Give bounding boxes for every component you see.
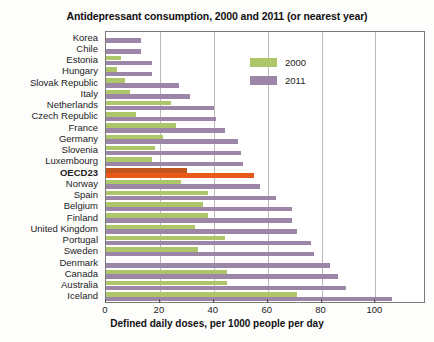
legend-label-2011: 2011 xyxy=(285,75,305,86)
category-label-iceland: Iceland xyxy=(0,290,101,301)
bar-2011-canada xyxy=(106,274,338,279)
bar-2011-portugal xyxy=(106,241,311,246)
legend-label-2000: 2000 xyxy=(285,57,306,68)
x-tick-label-60: 60 xyxy=(261,304,272,315)
category-label-chile: Chile xyxy=(0,43,101,54)
category-label-canada: Canada xyxy=(0,268,101,279)
x-tick-label-80: 80 xyxy=(315,304,326,315)
category-label-netherlands: Netherlands xyxy=(0,99,101,110)
bar-2011-australia xyxy=(106,286,346,291)
x-tick-mark-20 xyxy=(159,299,160,303)
chart-title: Antidepressant consumption, 2000 and 201… xyxy=(0,10,434,22)
x-tick-label-0: 0 xyxy=(102,304,107,315)
category-label-belgium: Belgium xyxy=(0,200,101,211)
bar-2011-united-kingdom xyxy=(106,229,297,234)
bar-2011-germany xyxy=(106,139,238,144)
bar-2011-netherlands xyxy=(106,106,214,111)
category-label-germany: Germany xyxy=(0,133,101,144)
bar-2011-korea xyxy=(106,38,141,43)
bar-2011-sweden xyxy=(106,252,314,257)
bar-2011-czech-republic xyxy=(106,117,216,122)
category-label-italy: Italy xyxy=(0,88,101,99)
legend-swatch-2011-icon xyxy=(250,76,277,85)
category-label-norway: Norway xyxy=(0,178,101,189)
bar-2011-norway xyxy=(106,184,260,189)
bar-2011-hungary xyxy=(106,72,152,77)
category-label-spain: Spain xyxy=(0,189,101,200)
x-tick-mark-0 xyxy=(105,299,106,303)
category-label-finland: Finland xyxy=(0,212,101,223)
bar-2011-estonia xyxy=(106,61,152,66)
category-label-australia: Australia xyxy=(0,279,101,290)
bar-2011-iceland xyxy=(106,297,392,302)
bar-2011-oecd23 xyxy=(106,173,254,178)
category-label-slovenia: Slovenia xyxy=(0,144,101,155)
x-tick-label-40: 40 xyxy=(207,304,218,315)
legend: 2000 2011 xyxy=(250,57,340,93)
category-axis-labels: KoreaChileEstoniaHungarySlovak RepublicI… xyxy=(0,31,101,303)
bar-2011-chile xyxy=(106,49,141,54)
bar-2011-slovenia xyxy=(106,151,241,156)
bar-2011-luxembourg xyxy=(106,162,243,167)
x-tick-mark-40 xyxy=(213,299,214,303)
category-label-sweden: Sweden xyxy=(0,245,101,256)
bar-2011-finland xyxy=(106,218,292,223)
x-tick-label-100: 100 xyxy=(367,304,383,315)
bar-2011-belgium xyxy=(106,207,292,212)
category-label-denmark: Denmark xyxy=(0,257,101,268)
legend-swatch-2000-icon xyxy=(250,58,277,67)
bar-2011-denmark xyxy=(106,263,330,268)
category-label-luxembourg: Luxembourg xyxy=(0,155,101,166)
x-tick-mark-80 xyxy=(321,299,322,303)
category-label-united-kingdom: United Kingdom xyxy=(0,223,101,234)
category-label-estonia: Estonia xyxy=(0,54,101,65)
x-tick-mark-60 xyxy=(267,299,268,303)
category-label-france: France xyxy=(0,122,101,133)
bar-2011-france xyxy=(106,128,225,133)
category-label-portugal: Portugal xyxy=(0,234,101,245)
x-tick-label-20: 20 xyxy=(154,304,165,315)
legend-item-2011: 2011 xyxy=(250,75,340,86)
bar-2011-spain xyxy=(106,196,276,201)
category-label-korea: Korea xyxy=(0,32,101,43)
bar-2011-italy xyxy=(106,94,190,99)
category-label-slovak-republic: Slovak Republic xyxy=(0,77,101,88)
bar-2011-slovak-republic xyxy=(106,83,179,88)
category-label-oecd23: OECD23 xyxy=(0,167,101,178)
x-axis: 020406080100 xyxy=(105,303,425,319)
category-label-hungary: Hungary xyxy=(0,65,101,76)
category-label-czech-republic: Czech Republic xyxy=(0,110,101,121)
antidepressant-consumption-chart: Antidepressant consumption, 2000 and 201… xyxy=(0,0,434,342)
x-axis-label: Defined daily doses, per 1000 people per… xyxy=(0,318,434,329)
legend-item-2000: 2000 xyxy=(250,57,340,68)
x-tick-mark-100 xyxy=(374,299,375,303)
